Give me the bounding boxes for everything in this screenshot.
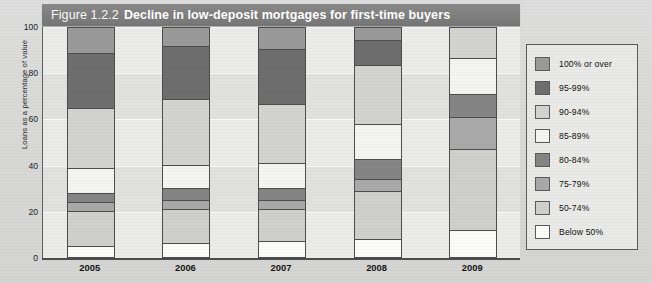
bar-group-container <box>43 27 520 258</box>
bar-segment <box>450 58 496 95</box>
bar-segment <box>68 211 114 245</box>
legend-swatch <box>535 201 550 215</box>
stacked-bar-2007 <box>258 27 306 258</box>
bar-segment <box>355 28 401 39</box>
page-title: Decline in low-deposit mortgages for fir… <box>124 8 450 22</box>
bar-segment <box>68 168 114 193</box>
bar-segment <box>355 191 401 239</box>
bar-segment <box>163 28 209 46</box>
legend-item: Below 50% <box>535 220 637 244</box>
bar-segment <box>68 108 114 168</box>
legend-swatch <box>535 177 550 191</box>
bar-segment <box>355 124 401 158</box>
figure-page: Figure 1.2.2 Decline in low-deposit mort… <box>0 0 652 283</box>
legend-label: 90-94% <box>559 107 590 117</box>
legend-label: 80-84% <box>559 155 590 165</box>
legend-label: 100% or over <box>559 59 612 69</box>
y-axis-tick-20: 20 <box>4 207 38 217</box>
bar-segment <box>259 209 305 241</box>
bar-segment <box>259 163 305 188</box>
bar-segment <box>68 193 114 202</box>
bar-segment <box>259 104 305 164</box>
bar-segment <box>259 28 305 49</box>
stacked-bar-2005 <box>67 27 115 258</box>
bar-segment <box>450 149 496 229</box>
bar-segment <box>355 179 401 190</box>
bar-segment <box>450 28 496 58</box>
bar-segment <box>68 246 114 257</box>
bar-segment <box>163 243 209 257</box>
x-axis-label-2009: 2009 <box>427 262 517 273</box>
x-axis-label-2008: 2008 <box>332 262 422 273</box>
plot-area <box>42 27 520 258</box>
bar-segment <box>259 200 305 209</box>
bar-segment <box>163 46 209 99</box>
bar-segment <box>259 241 305 257</box>
bar-segment <box>355 239 401 257</box>
legend-swatch <box>535 57 550 71</box>
legend-label: Below 50% <box>559 227 603 237</box>
legend-swatch <box>535 153 550 167</box>
y-axis-tick-60: 60 <box>4 114 38 124</box>
y-axis-tick-100: 100 <box>4 22 38 32</box>
legend-item: 50-74% <box>535 196 637 220</box>
legend-item: 95-99% <box>535 76 637 100</box>
legend: 100% or over95-99%90-94%85-89%80-84%75-7… <box>526 44 638 250</box>
stacked-bar-2009 <box>449 27 497 258</box>
bar-segment <box>68 202 114 211</box>
y-axis-tick-40: 40 <box>4 161 38 171</box>
bar-segment <box>163 188 209 199</box>
bar-segment <box>355 40 401 65</box>
bar-segment <box>355 159 401 180</box>
x-axis-label-2005: 2005 <box>45 262 135 273</box>
y-axis-ticks: 100806040200 <box>0 0 38 283</box>
legend-swatch <box>535 105 550 119</box>
legend-swatch <box>535 225 550 239</box>
stacked-bar-2006 <box>162 27 210 258</box>
legend-swatch <box>535 81 550 95</box>
bar-segment <box>259 49 305 104</box>
legend-label: 95-99% <box>559 83 590 93</box>
legend-item: 75-79% <box>535 172 637 196</box>
legend-item: 85-89% <box>535 124 637 148</box>
bar-segment <box>259 188 305 199</box>
x-axis-label-2007: 2007 <box>236 262 326 273</box>
legend-item: 80-84% <box>535 148 637 172</box>
legend-item: 90-94% <box>535 100 637 124</box>
x-axis-line <box>42 258 520 260</box>
legend-label: 50-74% <box>559 203 590 213</box>
bar-segment <box>163 209 209 243</box>
bar-segment <box>450 94 496 117</box>
bar-segment <box>163 165 209 188</box>
bar-segment <box>68 28 114 53</box>
legend-label: 85-89% <box>559 131 590 141</box>
y-axis-tick-0: 0 <box>4 253 38 263</box>
bar-segment <box>450 117 496 149</box>
bar-segment <box>450 230 496 257</box>
figure-number: Figure 1.2.2 <box>51 8 119 22</box>
bar-segment <box>68 53 114 108</box>
bar-segment <box>355 65 401 125</box>
y-axis-tick-80: 80 <box>4 68 38 78</box>
bar-segment <box>163 99 209 165</box>
legend-label: 75-79% <box>559 179 590 189</box>
stacked-bar-2008 <box>354 27 402 258</box>
bar-segment <box>163 200 209 209</box>
legend-item: 100% or over <box>535 52 637 76</box>
figure-title-bar: Figure 1.2.2 Decline in low-deposit mort… <box>42 4 520 26</box>
legend-swatch <box>535 129 550 143</box>
x-axis-label-2006: 2006 <box>140 262 230 273</box>
